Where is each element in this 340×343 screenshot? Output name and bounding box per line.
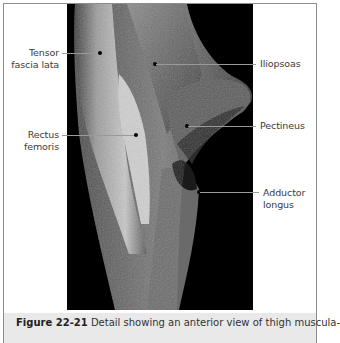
leader-line-tensor-fascia-lata (62, 53, 100, 54)
figure-number: Figure 22-21 (16, 317, 88, 328)
label-line-1: Rectus (10, 129, 59, 141)
figure-caption: Figure 22-21 Detail showing an anterior … (4, 313, 316, 343)
marker-dot-rectus-femoris (134, 133, 138, 137)
caption-text: Detail showing an anterior view of thigh… (88, 317, 340, 328)
leader-line-adductor-longus (200, 192, 259, 193)
label-tensor-fascia-lata: Tensor fascia lata (10, 47, 59, 70)
label-line-1: Adductor (263, 187, 305, 199)
label-line-1: Pectineus (260, 120, 305, 132)
label-pectineus: Pectineus (260, 120, 305, 132)
anatomy-photo (67, 4, 253, 310)
label-adductor-longus: Adductor longus (263, 187, 305, 210)
label-line-2: fascia lata (10, 59, 59, 71)
label-iliopsoas: Iliopsoas (260, 58, 301, 70)
leader-line-iliopsoas (156, 64, 256, 65)
marker-dot-tensor-fascia-lata (98, 51, 102, 55)
thigh-muscles-image (67, 4, 253, 310)
leader-line-pectineus (188, 126, 256, 127)
leader-line-rectus-femoris (62, 135, 136, 136)
label-line-2: longus (263, 199, 305, 211)
label-line-2: femoris (10, 141, 59, 153)
label-line-1: Tensor (10, 47, 59, 59)
label-rectus-femoris: Rectus femoris (10, 129, 59, 152)
label-line-1: Iliopsoas (260, 58, 301, 70)
